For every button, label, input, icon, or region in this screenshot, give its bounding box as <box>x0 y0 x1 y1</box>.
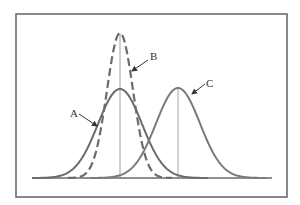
arrow-b-icon <box>132 60 148 71</box>
arrow-a-icon <box>79 114 97 126</box>
label-a: A <box>70 107 78 119</box>
curves <box>32 33 266 178</box>
distribution-diagram: ABC <box>0 0 300 205</box>
label-b: B <box>150 50 157 62</box>
curve-labels: ABC <box>70 50 213 126</box>
arrow-c-icon <box>192 84 205 94</box>
label-c: C <box>206 77 213 89</box>
vertical-lines <box>120 33 178 178</box>
